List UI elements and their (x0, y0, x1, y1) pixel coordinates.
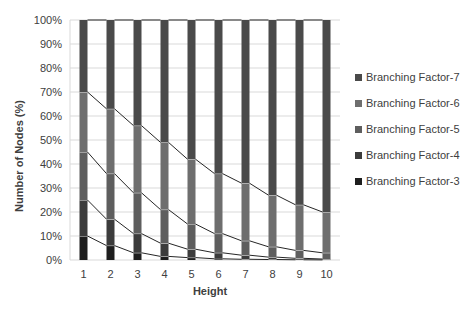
bar-segment (269, 247, 277, 257)
x-tick-label: 10 (320, 268, 332, 280)
legend-swatch (355, 126, 362, 133)
bar-segment (215, 253, 223, 259)
bar-segment (161, 210, 169, 244)
bar-segment (215, 234, 223, 253)
bar-segment (107, 174, 115, 220)
x-axis-ticks: 12345678910 (80, 268, 332, 280)
bar-segment (269, 195, 277, 247)
bar-segment (215, 20, 223, 174)
legend-item-bf4: Branching Factor-4 (355, 142, 460, 168)
bar-segment (242, 241, 250, 255)
y-tick-label: 80% (40, 62, 62, 74)
bar-segment (134, 126, 142, 193)
legend-swatch (355, 100, 362, 107)
x-tick-label: 9 (296, 268, 302, 280)
bar-segment (269, 20, 277, 195)
y-tick-label: 0% (46, 254, 62, 266)
x-tick-label: 3 (134, 268, 140, 280)
bar-segment (161, 243, 169, 256)
x-tick-label: 5 (188, 268, 194, 280)
bar-segment (215, 174, 223, 234)
bar-segment (134, 193, 142, 234)
x-tick-label: 4 (161, 268, 167, 280)
legend-swatch (355, 152, 362, 159)
bar-segment (242, 183, 250, 241)
x-tick-label: 1 (80, 268, 86, 280)
y-tick-label: 100% (34, 14, 62, 26)
bar-segment (161, 20, 169, 142)
bar-segment (188, 224, 196, 249)
bar-segment (107, 109, 115, 174)
bar-segment (107, 246, 115, 260)
bar-segment (242, 20, 250, 183)
bar-segment (161, 142, 169, 209)
bar-segment (242, 255, 250, 259)
legend-swatch (355, 74, 362, 81)
y-tick-label: 70% (40, 86, 62, 98)
bar-segment (80, 236, 88, 260)
bar-segment (296, 250, 304, 258)
bar-segment (323, 20, 331, 212)
bar-segment (188, 20, 196, 159)
bar-segment (134, 234, 142, 253)
bar-segment (296, 205, 304, 251)
bar-segment (188, 159, 196, 224)
x-tick-label: 6 (215, 268, 221, 280)
y-tick-label: 60% (40, 110, 62, 122)
bar-segment (188, 249, 196, 257)
x-tick-label: 2 (107, 268, 113, 280)
y-tick-label: 50% (40, 134, 62, 146)
y-axis-ticks: 0%10%20%30%40%50%60%70%80%90%100% (34, 14, 62, 266)
x-axis-label: Height (180, 285, 240, 297)
bar-segment (134, 253, 142, 260)
bar-segment (80, 92, 88, 152)
legend-item-bf3: Branching Factor-3 (355, 168, 460, 194)
x-tick-label: 8 (269, 268, 275, 280)
legend-swatch (355, 178, 362, 185)
bar-segment (323, 253, 331, 259)
legend-item-bf7: Branching Factor-7 (355, 64, 460, 90)
bar-segment (107, 20, 115, 109)
y-tick-label: 10% (40, 230, 62, 242)
bar-segment (107, 219, 115, 245)
bar-segment (296, 20, 304, 205)
y-tick-label: 40% (40, 158, 62, 170)
bar-segment (161, 256, 169, 260)
y-tick-label: 20% (40, 206, 62, 218)
y-axis-label: Number of Nodes (%) (13, 91, 25, 221)
bar-segment (80, 20, 88, 92)
y-tick-label: 90% (40, 38, 62, 50)
legend-item-bf5: Branching Factor-5 (355, 116, 460, 142)
legend: Branching Factor-7 Branching Factor-6 Br… (355, 64, 460, 194)
x-tick-label: 7 (242, 268, 248, 280)
bar-segment (80, 200, 88, 236)
bar-segment (80, 152, 88, 200)
y-tick-label: 30% (40, 182, 62, 194)
bar-segment (323, 212, 331, 253)
bar-segment (134, 20, 142, 126)
legend-item-bf6: Branching Factor-6 (355, 90, 460, 116)
